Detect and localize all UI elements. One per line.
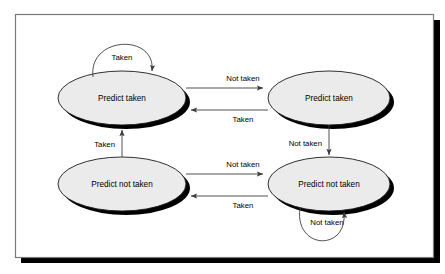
figure-frame [16, 15, 434, 258]
state-label: Predict not taken [91, 180, 153, 189]
state-diagram: Predict taken Predict taken Predict not … [0, 0, 445, 274]
transition-label: Taken [233, 115, 254, 124]
transition-label: Not taken [226, 74, 259, 83]
transition-label: Taken [94, 140, 115, 149]
transition-label: Not taken [310, 218, 343, 227]
state-label: Predict taken [98, 94, 146, 103]
transition-label: Taken [233, 201, 254, 210]
transition-label: Not taken [289, 139, 322, 148]
transition-label: Not taken [226, 160, 259, 169]
state-label: Predict taken [305, 94, 353, 103]
figure-root: Predict taken Predict taken Predict not … [0, 0, 445, 274]
transition-label: Taken [112, 53, 133, 62]
state-label: Predict not taken [298, 180, 360, 189]
